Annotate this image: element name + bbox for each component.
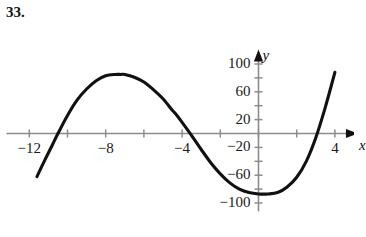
y-tick-label: 20 xyxy=(236,111,251,128)
y-tick-label: 60 xyxy=(236,83,251,100)
x-axis-label: x xyxy=(359,137,366,154)
y-tick-label: 100 xyxy=(228,55,251,72)
y-axis-label: y xyxy=(263,47,270,64)
x-axis-arrow xyxy=(346,129,354,138)
y-tick-label: −60 xyxy=(227,166,250,183)
x-tick-label: 4 xyxy=(331,140,339,157)
x-tick-label: −12 xyxy=(18,140,41,157)
x-tick-label: −4 xyxy=(174,140,190,157)
x-tick-label: −8 xyxy=(98,140,114,157)
y-tick-label: −100 xyxy=(220,194,251,211)
y-tick-label: −20 xyxy=(227,139,250,156)
